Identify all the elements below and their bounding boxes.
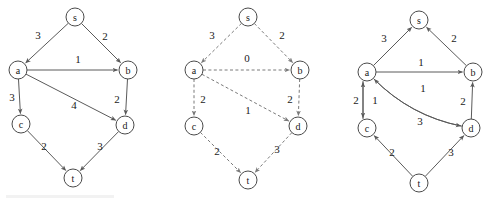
edge-weight-a-c: 1 [372,94,378,106]
edge-weight-b-d: 2 [287,93,293,105]
edge-a-to-s [373,27,411,65]
edge-b-to-d [126,79,128,115]
node-a: a [9,61,27,79]
node-label-t: t [247,175,250,186]
node-s: s [239,8,257,26]
edge-a-to-d [26,74,116,120]
edge-weight-c-t: 2 [41,140,47,152]
node-s: s [66,8,84,26]
node-label-s: s [417,15,421,26]
node-t: t [64,169,82,187]
page-artifact-smudge [6,195,114,198]
nodes-layer: sabcdtsabcdtsabcdt [9,8,482,192]
figure-root: sabcdtsabcdtsabcdt 321342233202122332121… [0,0,491,203]
edge-weight-a-c: 2 [200,93,206,105]
node-label-d: d [296,121,301,132]
node-label-t: t [418,178,421,189]
node-d: d [462,119,480,137]
edge-b-to-s [427,27,467,65]
edge-weight-a-c: 3 [9,91,15,103]
node-label-c: c [19,119,24,130]
edge-t-to-d [425,136,464,177]
node-b: b [464,63,482,81]
edge-s-to-a [26,23,69,63]
node-b: b [291,61,309,79]
edge-weight-a-b: 1 [75,53,81,65]
node-label-b: b [298,65,303,76]
node-label-c: c [192,121,197,132]
node-label-a: a [192,65,197,76]
edge-weight-s-b: 2 [102,30,108,42]
edge-weight-a-d: 1 [245,104,251,116]
node-s: s [410,11,428,29]
edge-c-to-t [200,132,240,172]
edge-weight-b-s: 2 [451,32,457,44]
node-t: t [410,174,428,192]
node-label-a: a [16,65,21,76]
edge-weight-d-t: 3 [274,143,280,155]
edge-s-to-a [201,23,241,62]
node-d: d [116,116,134,134]
node-label-b: b [126,65,131,76]
edge-d-to-b [471,82,472,119]
edge-weight-s-a: 3 [209,29,215,41]
node-d: d [289,117,307,135]
node-label-a: a [365,67,370,78]
edge-weight-a-b: 0 [244,52,250,64]
edge-s-to-b [81,23,120,62]
edge-weight-d-a: 1 [420,82,426,94]
edge-b-to-d [298,79,299,116]
edge-weight-c-t: 2 [214,145,220,157]
edge-weight-a-d: 3 [417,115,423,127]
node-label-d: d [469,123,474,134]
edge-weight-a-s: 3 [381,32,387,44]
edge-weight-d-t: 3 [97,140,103,152]
node-label-t: t [72,173,75,184]
node-c: c [185,117,203,135]
edge-weight-d-b: 2 [460,95,466,107]
node-c: c [358,119,376,137]
node-c: c [12,115,30,133]
edge-weight-c-a: 2 [353,94,359,106]
edge-weight-a-d: 4 [71,99,77,111]
node-label-s: s [73,12,77,23]
node-label-b: b [471,67,476,78]
edge-weight-s-a: 3 [35,29,41,41]
edge-weight-t-d: 3 [448,146,454,158]
edges-layer [18,23,472,176]
node-b: b [119,61,137,79]
node-a: a [358,63,376,81]
edge-weight-t-c: 2 [389,146,395,158]
node-label-s: s [246,12,250,23]
edge-weight-a-b: 1 [418,56,424,68]
edge-a-to-c [18,79,20,114]
node-label-d: d [123,120,128,131]
node-a: a [185,61,203,79]
edge-weight-b-d: 2 [114,93,120,105]
edge-s-to-b [254,23,292,62]
node-label-c: c [365,123,370,134]
edge-weight-s-b: 2 [279,29,285,41]
graph-figure-canvas: sabcdtsabcdtsabcdt 321342233202122332121… [0,0,491,203]
node-t: t [239,171,257,189]
